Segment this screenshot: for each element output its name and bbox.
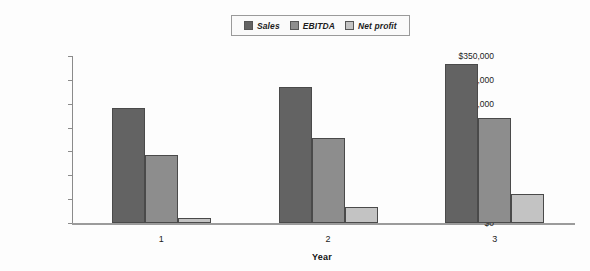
- y-tick-mark: [68, 80, 72, 81]
- bar-ebitda-year-3: [478, 118, 511, 223]
- chart-legend: Sales EBITDA Net profit: [231, 15, 410, 36]
- legend-swatch-net-profit: [345, 21, 354, 30]
- y-tick-label: $350,000: [459, 51, 494, 61]
- y-tick-mark: [68, 56, 72, 57]
- legend-item-ebitda: EBITDA: [290, 21, 335, 31]
- legend-swatch-sales: [244, 21, 253, 30]
- bar-sales-year-1: [112, 108, 145, 223]
- y-tick-mark: [68, 151, 72, 152]
- bar-sales-year-2: [279, 87, 312, 223]
- x-tick-label: 3: [492, 234, 497, 244]
- x-tick-label: 1: [159, 234, 164, 244]
- bar-net-profit-year-3: [511, 194, 544, 223]
- x-axis-title: Year: [72, 252, 572, 262]
- y-tick-mark: [68, 128, 72, 129]
- legend-label-sales: Sales: [257, 21, 280, 31]
- legend-item-net-profit: Net profit: [345, 21, 397, 31]
- x-axis-line: [72, 223, 575, 225]
- bar-net-profit-year-1: [178, 218, 211, 223]
- x-tick-label: 2: [325, 234, 330, 244]
- legend-item-sales: Sales: [244, 21, 280, 31]
- bar-ebitda-year-2: [312, 138, 345, 223]
- y-tick-mark: [68, 175, 72, 176]
- bar-sales-year-3: [445, 64, 478, 223]
- legend-label-ebitda: EBITDA: [303, 21, 335, 31]
- plot-area: $0$50,000$100,000$150,000$200,000$250,00…: [72, 56, 572, 223]
- bar-ebitda-year-1: [145, 155, 178, 223]
- y-tick-mark: [68, 223, 72, 224]
- legend-swatch-ebitda: [290, 21, 299, 30]
- y-axis-line: [72, 56, 73, 223]
- bar-chart: Sales EBITDA Net profit $0$50,000$100,00…: [0, 0, 590, 271]
- y-tick-mark: [68, 104, 72, 105]
- bar-net-profit-year-2: [345, 207, 378, 223]
- legend-label-net-profit: Net profit: [358, 21, 397, 31]
- y-tick-mark: [68, 199, 72, 200]
